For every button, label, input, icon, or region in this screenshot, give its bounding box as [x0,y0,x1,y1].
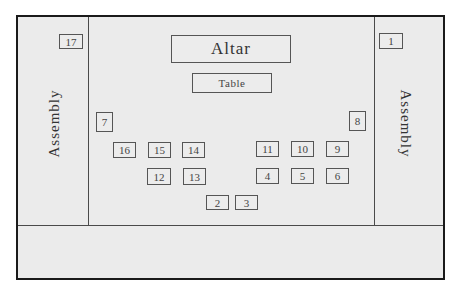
seat-15: 15 [148,142,171,158]
bottom-divider [18,225,443,226]
seat-9: 9 [326,141,349,157]
seat-1: 1 [379,33,403,49]
seat-16: 16 [113,142,136,158]
seat-13: 13 [183,168,206,185]
seat-3: 3 [235,195,258,210]
seat-14: 14 [182,142,205,158]
seat-2: 2 [206,195,229,210]
seat-4: 4 [256,168,279,184]
altar: Altar [171,35,291,63]
seat-7: 7 [96,112,113,132]
assembly-label-right: Assembly [397,90,414,156]
right-divider [374,17,375,225]
seat-5: 5 [291,168,314,184]
assembly-label-left: Assembly [46,92,63,158]
seat-17: 17 [59,34,83,49]
seat-8: 8 [349,111,366,131]
seat-12: 12 [147,168,171,185]
table: Table [192,73,272,93]
seat-6: 6 [326,168,349,184]
seat-11: 11 [256,141,279,157]
left-divider [88,17,89,225]
seat-10: 10 [291,141,314,157]
